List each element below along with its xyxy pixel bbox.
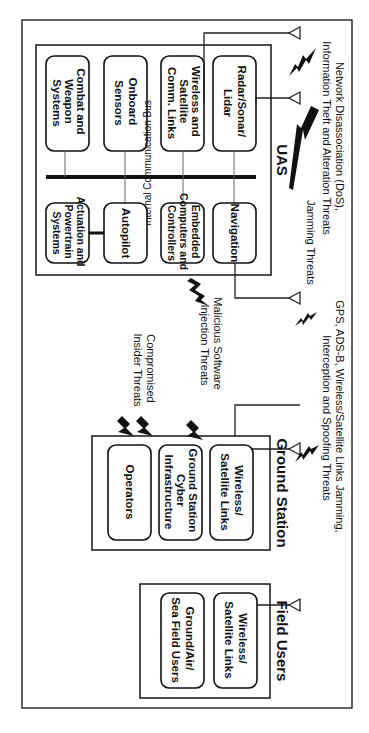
field-users-group: Field Users Wireless/ Satellite Links Gr… — [140, 584, 291, 698]
malicious-software-label: Malicious Software Injection Threats — [199, 297, 224, 392]
operators-label: Operators — [124, 465, 136, 520]
lightning-bolt-icon — [295, 312, 317, 326]
uas-threat-diagram: UAS Radar/Sonar/ Lidar Wireless and Sate… — [0, 0, 369, 733]
diagram-canvas: UAS Radar/Sonar/ Lidar Wireless and Sate… — [0, 0, 369, 733]
onboard-sensors-box — [104, 56, 147, 151]
field-users-title: Field Users — [274, 601, 291, 682]
gs-wireless-links-box — [210, 445, 253, 540]
malicious-bolt-icon — [187, 278, 209, 306]
network-threat-label: Network Disassociation (DoS), Informatio… — [321, 41, 346, 235]
lightning-bolt-icon — [289, 48, 316, 76]
uas-group: UAS Radar/Sonar/ Lidar Wireless and Sate… — [36, 45, 291, 275]
antenna-icon — [289, 27, 300, 39]
ground-station-group: Ground Station Wireless/ Satellite Links… — [92, 436, 291, 550]
gps-threat-label: GPS, ADS-B, Wireless/Satellite Links Jam… — [321, 300, 346, 535]
ground-station-title: Ground Station — [274, 438, 291, 547]
antenna-icon — [289, 292, 300, 304]
insider-bolt-icon — [117, 416, 134, 436]
autopilot-label: Autopilot — [120, 208, 132, 259]
antenna-icon — [289, 92, 300, 104]
field-users-box-inner — [161, 593, 204, 688]
uas-title: UAS — [274, 144, 291, 176]
malicious-bolt-icon — [186, 420, 203, 440]
jamming-threat-label: Jamming Threats — [305, 200, 317, 285]
navigation-label: Navigation — [229, 204, 241, 263]
insider-bolt-icon — [136, 416, 153, 436]
insider-threat-label: Compromised Insider Threats — [132, 333, 157, 407]
jamming-bolt-icon — [289, 106, 319, 190]
radar-sonar-lidar-box — [213, 56, 256, 151]
fu-wireless-links-box — [214, 593, 257, 688]
embedded-computers-label: Embedded Computers and Controllers — [166, 193, 202, 273]
